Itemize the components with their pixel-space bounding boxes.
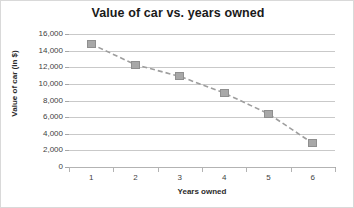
- y-axis-tick-mark: [65, 34, 69, 35]
- y-axis-tick-mark: [65, 150, 69, 151]
- x-axis-tick-mark: [158, 168, 159, 172]
- data-point-marker: [87, 40, 96, 48]
- x-axis-tick-mark: [291, 168, 292, 172]
- y-axis-tick-mark: [65, 117, 69, 118]
- x-axis-tick-label: 3: [165, 173, 195, 182]
- x-axis-tick-label: 5: [254, 173, 284, 182]
- series-line: [69, 34, 335, 167]
- y-axis-tick-label: 2,000: [43, 145, 63, 154]
- data-point-marker: [308, 139, 317, 147]
- plot-area: [69, 34, 335, 167]
- y-axis-tick-label: 6,000: [43, 112, 63, 121]
- y-axis-tick-label: 10,000: [39, 79, 63, 88]
- y-axis-tick-label: 4,000: [43, 129, 63, 138]
- y-axis-tick-mark: [65, 84, 69, 85]
- x-axis-tick-mark: [202, 168, 203, 172]
- x-axis-tick-label: 6: [298, 173, 328, 182]
- chart-card: Value of car vs. years owned Value of ca…: [0, 0, 354, 208]
- y-axis-tick-mark: [65, 67, 69, 68]
- x-axis-tick-mark: [335, 168, 336, 172]
- y-axis-tick-label: 14,000: [39, 46, 63, 55]
- y-axis-tick-mark: [65, 134, 69, 135]
- y-axis-tick-label: 12,000: [39, 62, 63, 71]
- data-point-marker: [131, 61, 140, 69]
- data-point-marker: [264, 110, 273, 118]
- x-axis-tick-label: 1: [76, 173, 106, 182]
- x-axis-tick-mark: [113, 168, 114, 172]
- y-axis-tick-labels: 02,0004,0006,0008,00010,00012,00014,0001…: [17, 1, 63, 208]
- y-axis-tick-mark: [65, 101, 69, 102]
- y-axis-tick-label: 16,000: [39, 29, 63, 38]
- data-point-marker: [220, 89, 229, 97]
- x-axis-tick-mark: [246, 168, 247, 172]
- data-point-marker: [175, 72, 184, 80]
- x-axis-title: Years owned: [69, 187, 335, 196]
- y-axis-tick-mark: [65, 51, 69, 52]
- y-axis-tick-mark: [65, 167, 69, 168]
- x-axis-tick-mark: [69, 168, 70, 172]
- y-axis-tick-label: 8,000: [43, 96, 63, 105]
- y-axis-tick-label: 0: [59, 162, 63, 171]
- x-axis-tick-label: 4: [209, 173, 239, 182]
- x-axis-tick-label: 2: [121, 173, 151, 182]
